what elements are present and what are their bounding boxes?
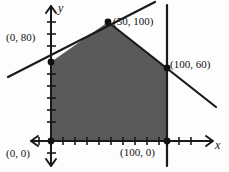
point-label-0-0: (0, 0) <box>6 147 30 159</box>
x-axis-label: x <box>215 139 220 151</box>
point-label-0-80: (0, 80) <box>6 31 35 43</box>
vertex-dot-100-0 <box>164 138 171 145</box>
y-axis-label: y <box>58 2 63 14</box>
math-graph-figure: (0, 80) (50, 100) (100, 60) (0, 0) (100,… <box>0 0 229 172</box>
vertex-dot-0-80 <box>48 59 55 66</box>
vertex-dot-50-100 <box>105 19 112 26</box>
feasible-region-shape <box>51 22 167 141</box>
point-label-50-100: (50, 100) <box>113 15 153 27</box>
vertex-dot-0-0 <box>48 138 55 145</box>
point-label-100-60: (100, 60) <box>170 58 210 70</box>
point-label-100-0: (100, 0) <box>120 146 155 158</box>
